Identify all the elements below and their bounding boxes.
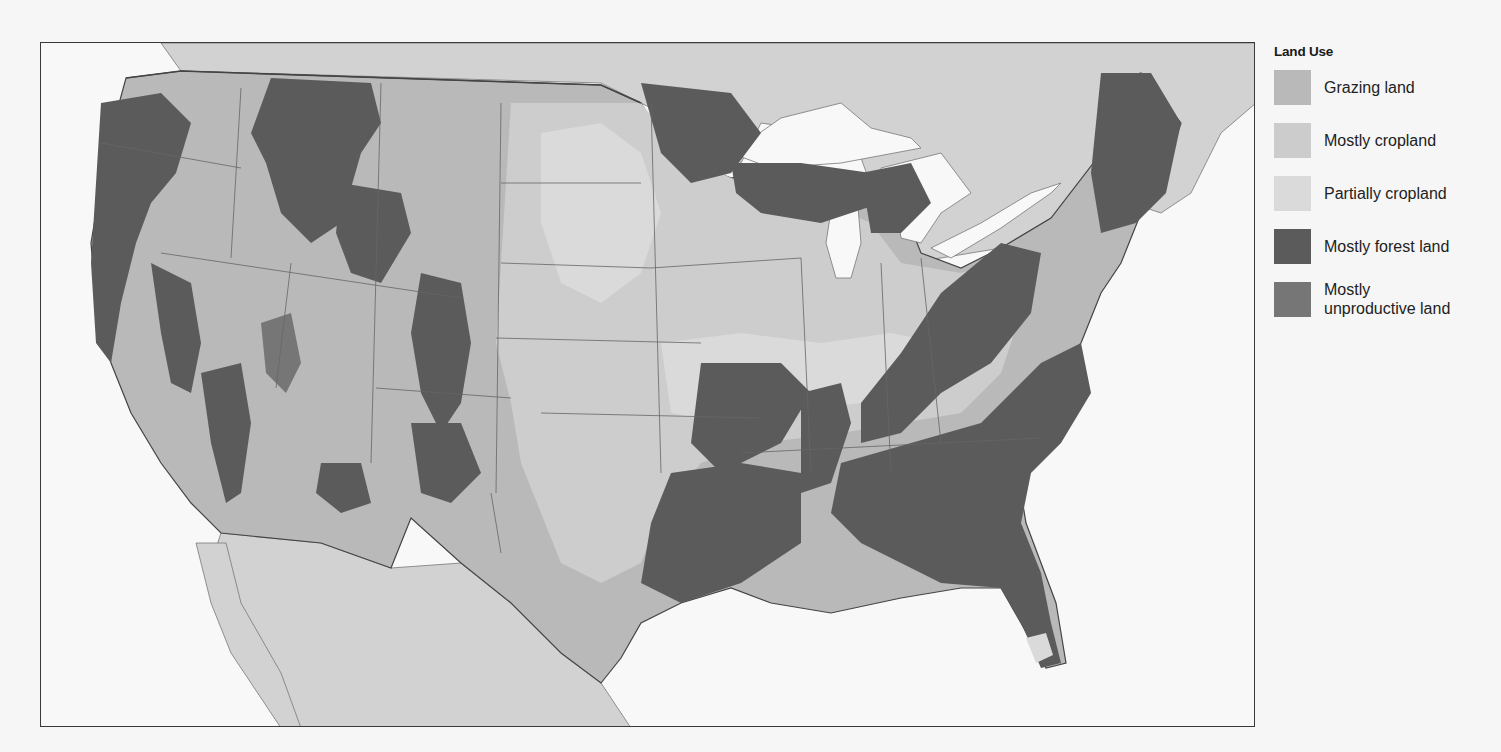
legend-item-unproductive: Mostly unproductive land — [1274, 281, 1501, 317]
legend-label: Grazing land — [1324, 78, 1415, 97]
legend-item-grazing: Grazing land — [1274, 69, 1501, 105]
legend-item-mostly-cropland: Mostly cropland — [1274, 122, 1501, 158]
legend-item-partially-cropland: Partially cropland — [1274, 175, 1501, 211]
forest-swatch — [1274, 229, 1311, 264]
legend-label: Mostly forest land — [1324, 237, 1449, 256]
legend-label-line1: Mostly — [1324, 281, 1370, 298]
legend-item-forest: Mostly forest land — [1274, 228, 1501, 264]
legend: Land Use Grazing land Mostly cropland Pa… — [1274, 44, 1501, 334]
legend-label: Partially cropland — [1324, 184, 1447, 203]
legend-title: Land Use — [1274, 44, 1501, 59]
legend-label: Mostly cropland — [1324, 131, 1436, 150]
unproductive-swatch — [1274, 282, 1311, 317]
map-canvas — [41, 43, 1255, 727]
partially-cropland-swatch — [1274, 176, 1311, 211]
land-use-map — [40, 42, 1255, 727]
legend-label: Mostly unproductive land — [1324, 280, 1450, 318]
legend-label-line2: unproductive land — [1324, 300, 1450, 317]
mostly-cropland-swatch — [1274, 123, 1311, 158]
grazing-swatch — [1274, 70, 1311, 105]
